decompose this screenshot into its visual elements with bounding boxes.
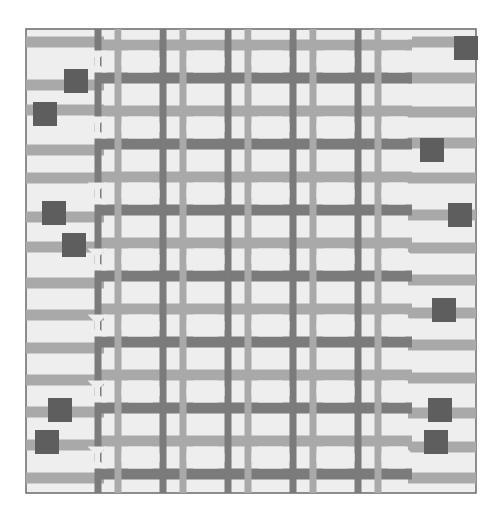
square-block [432,298,456,322]
lattice-band-h [100,139,412,150]
square-block [424,430,448,454]
lattice-band-h [100,436,412,447]
square-block [35,430,59,454]
octagon-cell [252,249,290,271]
quilt-image [0,0,503,516]
octagon-cell [382,249,413,271]
octagon-cell [187,381,225,403]
octagon-cell [122,183,160,205]
octagon-cell [187,183,225,205]
lattice-band-h [100,40,412,51]
lattice-band-h [100,238,412,249]
octagon-cell [252,117,290,139]
octagon-cell [382,183,413,205]
octagon-cell [252,447,290,469]
square-block [428,398,452,422]
lattice-band-h [100,403,412,414]
octagon-cell-partial [252,30,290,40]
octagon-cell [382,315,413,337]
octagon-cell [382,381,413,403]
square-block [64,69,88,93]
octagon-cell [187,117,225,139]
octagon-cell-partial [122,30,160,40]
octagon-cell [317,183,355,205]
lattice-band-h [100,106,412,117]
octagon-cell [317,447,355,469]
lattice-band-h [100,172,412,183]
stripe-right [408,373,476,384]
octagon-cell [317,51,355,73]
stripe-left [26,145,104,156]
octagon-cell [122,447,160,469]
octagon-cell [317,315,355,337]
square-block [454,36,478,60]
octagon-cell [122,117,160,139]
octagon-cell [317,117,355,139]
octagon-cell [382,51,413,73]
lattice-band-v [310,29,317,493]
stripe-left [26,173,104,184]
stripe-left [26,473,104,484]
square-block [420,138,444,162]
stripe-right [408,243,476,254]
lattice-band-h [100,73,412,84]
octagon-cell [317,249,355,271]
octagon-cell [252,315,290,337]
octagon-cell [187,315,225,337]
lattice-band-v [375,29,382,493]
octagon-cell [187,447,225,469]
octagon-cell-partial [187,30,225,40]
lattice-band-h [100,337,412,348]
square-block [42,201,66,225]
square-block [33,102,57,126]
square-block [48,398,72,422]
stripe-right [408,340,476,351]
lattice-band-v [225,29,232,493]
stripe-right [408,173,476,184]
octagon-cell [122,381,160,403]
quilt-photo: Quilt with interlocking octagon lattice … [0,0,503,516]
octagon-cell [252,381,290,403]
octagon-cell-partial [317,30,355,40]
stripe-right [408,473,476,484]
lattice-band-v [245,29,252,493]
octagon-cell [122,249,160,271]
octagon-cell [382,117,413,139]
octagon-cell-partial [382,30,413,40]
stripe-left [26,278,104,289]
lattice-band-v [180,29,187,493]
stripe-right [408,275,476,286]
stripe-right [408,107,476,118]
square-block [62,233,86,257]
lattice-band-h [100,304,412,315]
stripe-left [26,37,104,48]
octagon-cell [122,51,160,73]
octagon-cell [252,51,290,73]
lattice-band-v [355,29,362,493]
lattice-band-h [100,271,412,282]
octagon-cell [122,315,160,337]
octagon-cell [187,51,225,73]
lattice-band-h [100,205,412,216]
lattice-band-v [160,29,167,493]
lattice-band-h [100,370,412,381]
octagon-cell [252,183,290,205]
stripe-left [26,343,104,354]
lattice-band-h [100,469,412,480]
stripe-right [408,73,476,84]
lattice-band-v [115,29,122,493]
octagon-cell [317,381,355,403]
lattice-band-v [290,29,297,493]
square-block [448,203,472,227]
octagon-cell [382,447,413,469]
octagon-cell [187,249,225,271]
